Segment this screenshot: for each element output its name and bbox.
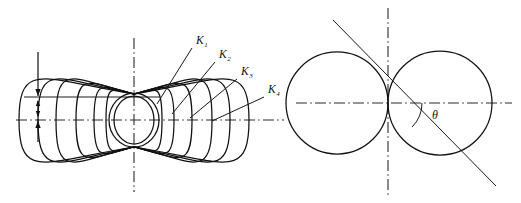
field-line-family-diagram: K1K2K3K4 bbox=[16, 34, 284, 192]
label-leader-line bbox=[212, 97, 264, 121]
curve-label-K2: K2 bbox=[218, 48, 231, 63]
curve-label-subscript: 3 bbox=[248, 72, 253, 80]
theta-angle-arc bbox=[412, 103, 422, 127]
cardioid-two-circle-diagram: θ bbox=[286, 8, 512, 196]
dimension-inner-arrow-down-icon bbox=[36, 111, 40, 117]
label-leader-lines-group bbox=[157, 48, 264, 121]
curve-label-subscript: 1 bbox=[204, 41, 208, 49]
dimension-arrow-up-icon bbox=[35, 121, 40, 128]
technical-figure-svg: K1K2K3K4 θ bbox=[0, 0, 521, 203]
theta-label: θ bbox=[432, 108, 438, 122]
curve-label-K4: K4 bbox=[267, 83, 280, 98]
figure-container: K1K2K3K4 θ bbox=[0, 0, 521, 203]
curve-label-subscript: 4 bbox=[276, 90, 280, 98]
curve-label-subscript: 2 bbox=[227, 55, 231, 63]
curve-label-K1: K1 bbox=[195, 34, 208, 49]
dimension-marker-group bbox=[24, 52, 160, 142]
curve-label-K3: K3 bbox=[240, 65, 253, 80]
right-axes-group bbox=[296, 8, 512, 196]
